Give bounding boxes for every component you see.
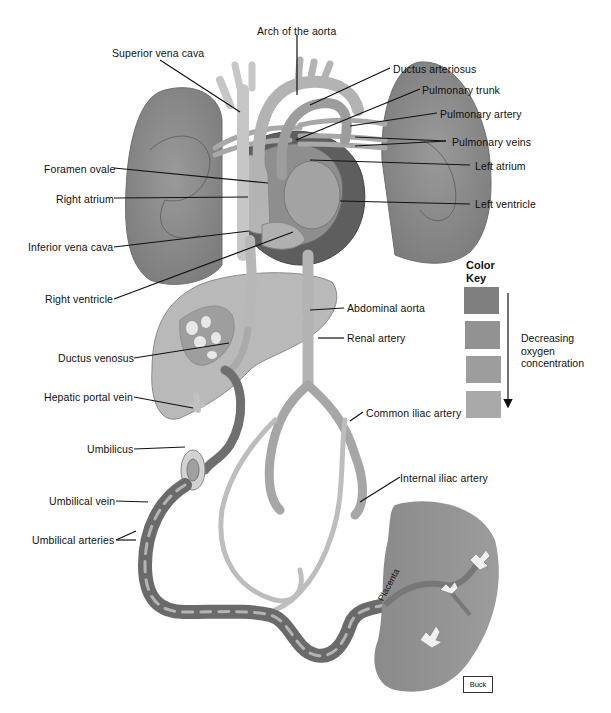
color-key-swatch-3	[466, 356, 501, 383]
label-pulmonary-trunk: Pulmonary trunk	[422, 84, 500, 96]
label-arch-of-the-aorta: Arch of the aorta	[257, 25, 336, 37]
label-superior-vena-cava: Superior vena cava	[112, 47, 204, 59]
label-renal-artery: Renal artery	[347, 332, 405, 344]
label-ductus-arteriosus: Ductus arteriosus	[393, 63, 476, 75]
label-pulmonary-veins: Pulmonary veins	[452, 136, 531, 148]
color-key-title-line1: Color	[466, 259, 495, 272]
umbilical-cord	[145, 485, 385, 656]
placenta	[374, 501, 498, 691]
illustrator-credit: Buck	[463, 676, 493, 693]
label-left-ventricle: Left ventricle	[475, 198, 536, 210]
label-umbilical-arteries: Umbilical arteries	[32, 534, 114, 546]
label-abdominal-aorta: Abdominal aorta	[347, 302, 425, 314]
right-lung	[126, 88, 222, 285]
label-ductus-venosus: Ductus venosus	[58, 352, 134, 364]
color-key-description: Decreasing oxygen concentration	[521, 332, 584, 370]
color-key-swatch-4	[466, 391, 501, 418]
color-key-desc-line1: Decreasing	[521, 332, 584, 345]
label-left-atrium: Left atrium	[475, 160, 526, 172]
color-key-swatch-1	[464, 287, 499, 314]
label-hepatic-portal-vein: Hepatic portal vein	[44, 391, 133, 403]
color-key-title: Color Key	[466, 259, 495, 285]
label-inferior-vena-cava: Inferior vena cava	[28, 241, 113, 253]
label-internal-iliac-artery: Internal iliac artery	[400, 472, 488, 484]
label-right-atrium: Right atrium	[56, 193, 114, 205]
label-umbilical-vein: Umbilical vein	[49, 495, 115, 507]
color-key-desc-line3: concentration	[521, 357, 584, 370]
label-pulmonary-artery: Pulmonary artery	[440, 108, 522, 120]
color-key-desc-line2: oxygen	[521, 345, 584, 358]
label-right-ventricle: Right ventricle	[45, 293, 113, 305]
color-key-title-line2: Key	[466, 272, 495, 285]
color-key-swatch-2	[465, 321, 500, 349]
label-foramen-ovale: Foramen ovale	[44, 163, 115, 175]
label-common-iliac-artery: Common iliac artery	[366, 407, 461, 419]
label-umbilicus: Umbilicus	[87, 443, 133, 455]
